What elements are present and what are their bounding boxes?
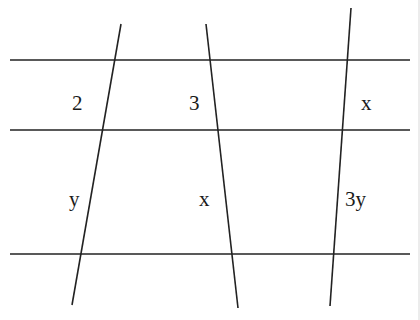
label-3: 3: [189, 91, 200, 115]
label-y: y: [69, 187, 80, 211]
label-x-top: x: [361, 91, 372, 115]
transversal-line-3: [330, 8, 351, 306]
horizontal-parallel-lines: [10, 60, 410, 254]
label-x-bottom: x: [199, 187, 210, 211]
transversal-line-2: [206, 24, 238, 308]
label-3y: 3y: [345, 187, 367, 211]
parallel-lines-diagram: 23xyx3y: [0, 0, 420, 320]
label-2: 2: [72, 91, 83, 115]
transversal-line-1: [72, 24, 121, 305]
transversal-lines: [72, 8, 351, 308]
